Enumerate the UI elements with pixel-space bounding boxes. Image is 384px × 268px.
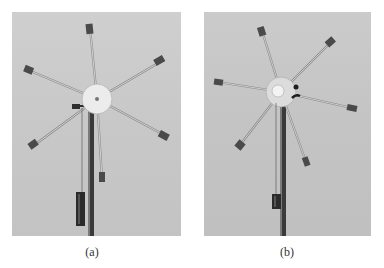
hanging-mass <box>76 192 85 226</box>
photo-panel-b <box>204 12 371 236</box>
support-pole <box>282 105 286 236</box>
caption-b: (b) <box>272 245 302 260</box>
caption-a: (a) <box>77 245 107 260</box>
photo-panel-a <box>12 12 181 236</box>
figure: (a) <box>0 0 384 268</box>
support-pole <box>90 110 94 236</box>
hanging-mass <box>272 194 281 209</box>
